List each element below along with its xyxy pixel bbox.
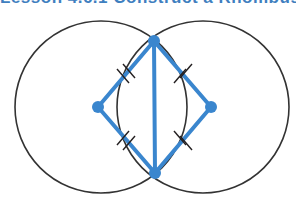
right-circle (117, 21, 289, 193)
edge-bottom-left (98, 107, 155, 173)
top-intersection-point (148, 35, 160, 47)
right-center-point (205, 101, 217, 113)
geometry-diagram (0, 0, 296, 198)
diagonal-vertical (154, 41, 155, 173)
screenshot-canvas: Lesson 4.6.1 Construct a Rhombus (0, 0, 296, 198)
edge-top-left (98, 41, 154, 107)
bottom-intersection-point (149, 167, 161, 179)
left-center-point (92, 101, 104, 113)
rhombus-edges-group (98, 41, 211, 173)
